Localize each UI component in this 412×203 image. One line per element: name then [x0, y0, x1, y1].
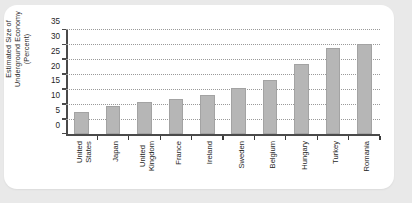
bar — [231, 88, 246, 135]
bar — [357, 44, 372, 135]
y-tick-mark — [62, 118, 66, 119]
x-tick-mark — [222, 136, 223, 140]
x-axis-label: UnitedStates — [76, 141, 93, 163]
x-axis-label-line: Kingdom — [148, 141, 157, 171]
y-tick-mark — [62, 88, 66, 89]
x-tick-mark — [97, 136, 98, 140]
x-axis-label: Sweden — [238, 141, 247, 168]
plot-area: 05101520253035 — [66, 30, 380, 136]
bar — [74, 112, 89, 134]
plot-inner: 05101520253035 — [66, 30, 380, 136]
y-tick-label: 30 — [51, 33, 60, 41]
x-axis-label: Hungary — [301, 141, 310, 170]
bar — [326, 48, 341, 135]
x-axis-label: Belgium — [269, 141, 278, 168]
y-tick-label: 0 — [55, 122, 60, 130]
y-tick-label: 15 — [51, 77, 60, 85]
x-axis-label: France — [175, 141, 184, 165]
gridline — [66, 44, 380, 45]
bar — [169, 99, 184, 135]
x-axis-labels: UnitedStatesJapanUnitedKingdomFranceIrel… — [66, 141, 380, 187]
x-tick-mark — [128, 136, 129, 140]
x-axis-label: Japan — [112, 141, 121, 162]
x-axis-label-line: France — [175, 141, 184, 165]
x-axis-label-line: Belgium — [269, 141, 278, 168]
x-tick-mark — [285, 136, 286, 140]
x-tick-mark — [379, 136, 380, 140]
y-tick-mark — [62, 73, 66, 74]
x-tick-mark — [254, 136, 255, 140]
y-axis-title-line-1: Estimated Size of — [4, 0, 13, 101]
x-axis-label-line: Ireland — [206, 141, 215, 164]
bar-chart: Estimated Size of Underground Economy (P… — [4, 5, 394, 189]
x-tick-mark — [317, 136, 318, 140]
y-tick-label: 25 — [51, 48, 60, 56]
x-axis-label-line: Turkey — [332, 141, 341, 164]
x-axis-label-line: Japan — [112, 141, 121, 162]
y-axis-line — [66, 30, 68, 136]
x-axis-label-line: Hungary — [301, 141, 310, 170]
x-axis-label: Turkey — [332, 141, 341, 164]
y-tick-mark — [62, 58, 66, 59]
y-tick-label: 10 — [51, 92, 60, 100]
y-axis-title-line-3: (Percent) — [22, 0, 31, 101]
y-tick-label: 35 — [51, 18, 60, 26]
bar — [294, 64, 309, 134]
x-tick-mark — [160, 136, 161, 140]
x-tick-mark — [348, 136, 349, 140]
y-tick-mark — [62, 44, 66, 45]
y-tick-mark — [62, 29, 66, 30]
x-axis-label: Romania — [363, 141, 372, 171]
x-axis-label-line: Sweden — [238, 141, 247, 168]
bar — [106, 106, 121, 134]
bar — [137, 102, 152, 134]
bar — [263, 80, 278, 134]
figure-card: Estimated Size of Underground Economy (P… — [4, 5, 394, 189]
gridline — [66, 29, 380, 30]
x-axis-label: UnitedKingdom — [139, 141, 156, 171]
y-tick-mark — [62, 103, 66, 104]
x-axis-label-line: States — [85, 141, 94, 163]
y-axis-title-line-2: Underground Economy — [13, 0, 22, 101]
y-axis-title: Estimated Size of Underground Economy (P… — [4, 0, 56, 101]
x-tick-mark — [191, 136, 192, 140]
y-tick-label: 20 — [51, 62, 60, 70]
x-axis-label: Ireland — [206, 141, 215, 164]
y-tick-mark — [62, 133, 66, 134]
y-tick-label: 5 — [55, 107, 60, 115]
x-axis-label-line: Romania — [363, 141, 372, 171]
bar — [200, 95, 215, 135]
